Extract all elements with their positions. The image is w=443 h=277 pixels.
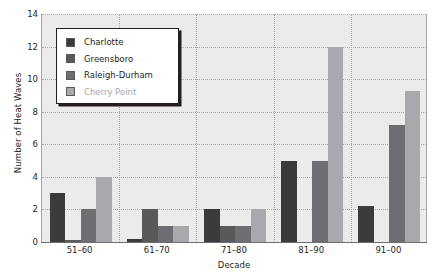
y-tick-label: 12 — [16, 42, 38, 52]
y-axis-tick-labels: 02468101214 — [12, 0, 38, 277]
bar — [235, 226, 251, 242]
bar — [50, 193, 66, 242]
bar — [81, 209, 97, 242]
x-tick-label: 91–00 — [375, 245, 401, 255]
y-tick-label: 8 — [16, 107, 38, 117]
y-tick-label: 4 — [16, 172, 38, 182]
x-tick-label: 81–90 — [298, 245, 324, 255]
legend-color-swatch — [66, 71, 75, 80]
y-tick-label: 0 — [16, 237, 38, 247]
legend-item[interactable]: Cherry Point — [57, 84, 178, 101]
legend-item[interactable]: Raleigh-Durham — [57, 67, 178, 84]
bar — [312, 161, 328, 242]
x-axis-tick-labels: 51–6061–7071–8081–9091–00 — [41, 245, 427, 261]
bar — [328, 47, 344, 242]
x-tick-label: 71–80 — [221, 245, 247, 255]
legend-item-label: Cherry Point — [84, 87, 136, 97]
bar — [142, 209, 158, 242]
legend-item[interactable]: Greensboro — [57, 51, 178, 68]
heat-waves-bar-chart: Number of Heat Waves 02468101214 51–6061… — [0, 0, 443, 277]
legend-color-swatch — [66, 38, 75, 47]
bar — [173, 226, 189, 242]
x-axis-title: Decade — [41, 260, 427, 270]
chart-legend: CharlotteGreensboroRaleigh-DurhamCherry … — [56, 28, 179, 104]
x-axis-line — [41, 242, 427, 243]
x-tick-label: 61–70 — [144, 245, 170, 255]
x-tick-label: 51–60 — [67, 245, 93, 255]
legend-item-label: Greensboro — [84, 54, 133, 64]
bar — [358, 206, 374, 242]
legend-item-label: Charlotte — [84, 37, 123, 47]
bar — [96, 177, 112, 242]
legend-item-label: Raleigh-Durham — [84, 70, 153, 80]
y-tick-label: 2 — [16, 204, 38, 214]
y-tick-label: 14 — [16, 9, 38, 19]
bar — [158, 226, 174, 242]
y-tick-label: 6 — [16, 139, 38, 149]
bar — [389, 125, 405, 242]
bar — [204, 209, 220, 242]
bar — [220, 226, 236, 242]
legend-color-swatch — [66, 54, 75, 63]
bar — [405, 91, 421, 242]
y-tick-label: 10 — [16, 74, 38, 84]
bar — [281, 161, 297, 242]
legend-item[interactable]: Charlotte — [57, 34, 178, 51]
bar — [251, 209, 267, 242]
legend-color-swatch — [66, 87, 75, 96]
